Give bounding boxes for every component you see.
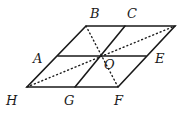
label-H: H bbox=[5, 93, 18, 108]
label-A: A bbox=[32, 51, 42, 66]
label-G: G bbox=[64, 93, 74, 108]
label-C: C bbox=[127, 6, 137, 21]
label-B: B bbox=[89, 6, 100, 21]
label-F: F bbox=[113, 93, 124, 108]
label-E: E bbox=[154, 51, 165, 66]
dotted-diagonal-HTR bbox=[27, 26, 175, 87]
geometry-diagram: B C A O E H G F bbox=[0, 0, 184, 113]
label-O: O bbox=[104, 57, 115, 72]
